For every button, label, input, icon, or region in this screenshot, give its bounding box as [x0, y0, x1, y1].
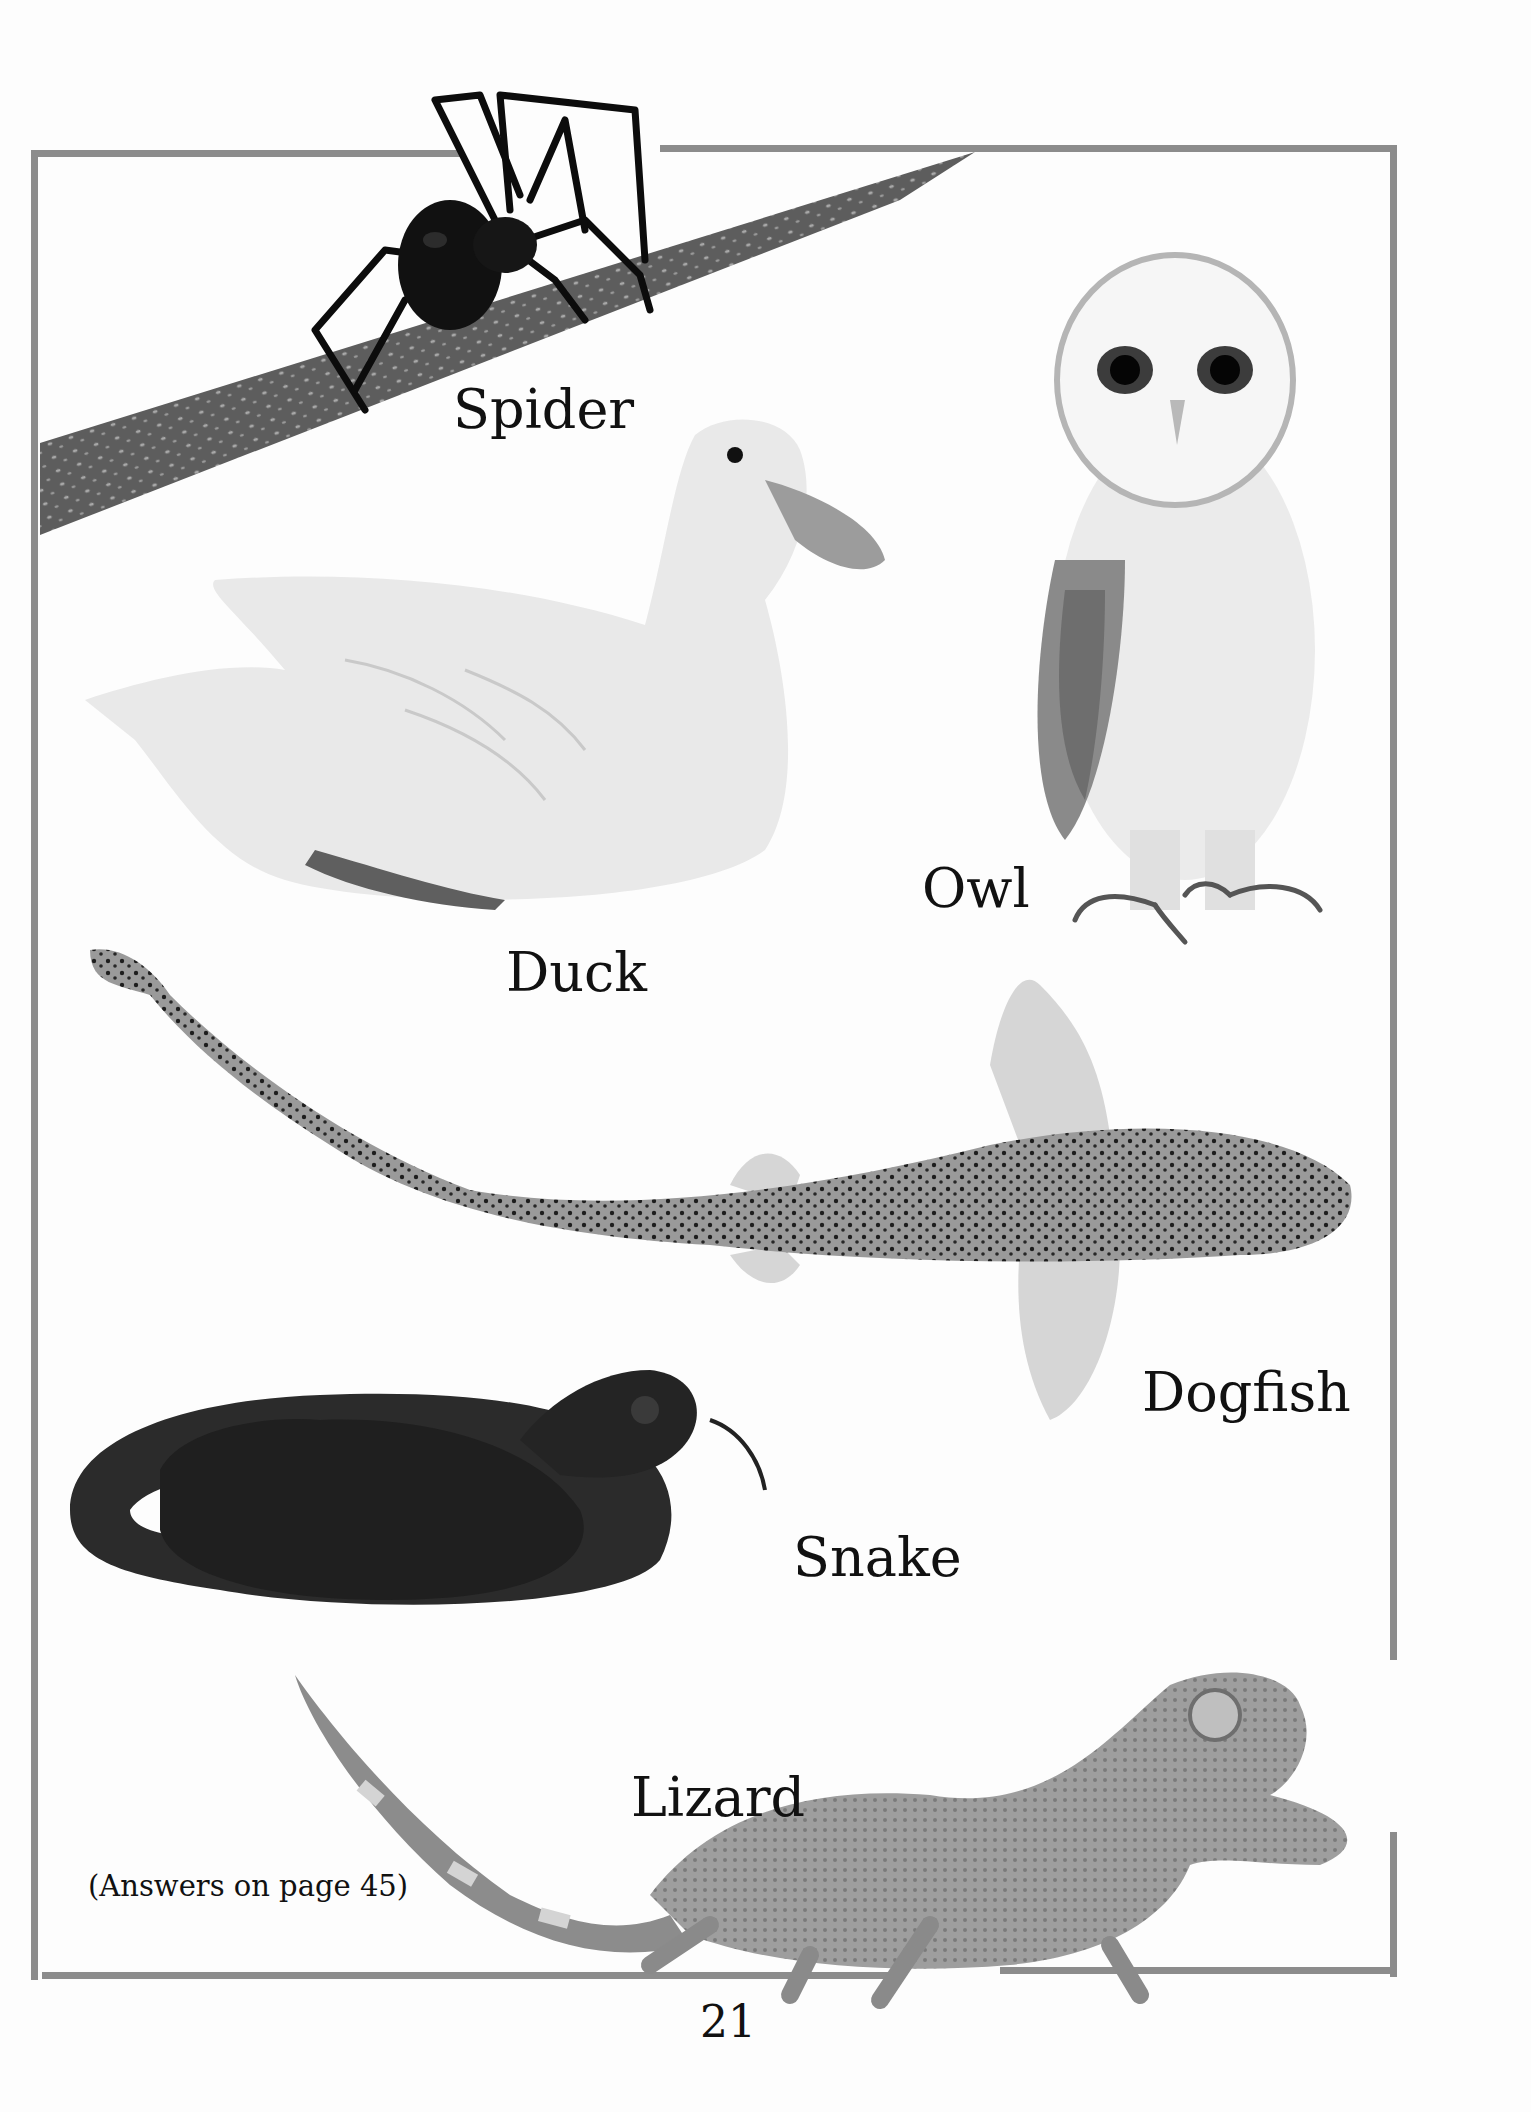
- label-snake: Snake: [793, 1531, 962, 1585]
- owl-photo: [1015, 230, 1355, 945]
- book-page: Spider Owl: [0, 0, 1531, 2112]
- label-lizard: Lizard: [631, 1771, 805, 1825]
- page-number: 21: [700, 2000, 756, 2044]
- lizard-photo: [290, 1665, 1500, 2015]
- duck-photo: [85, 410, 895, 915]
- snake-photo: [60, 1360, 795, 1615]
- dogfish-photo: [90, 945, 1355, 1425]
- answers-note: (Answers on page 45): [88, 1872, 408, 1901]
- spider-photo: [285, 90, 665, 410]
- label-dogfish: Dogfish: [1142, 1366, 1351, 1420]
- label-owl: Owl: [922, 862, 1030, 916]
